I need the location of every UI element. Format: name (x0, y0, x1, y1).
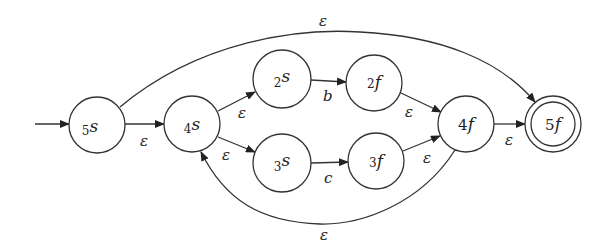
state-5f-accepting: 5f (525, 96, 581, 152)
svg-text:4f: 4f (458, 114, 477, 134)
nfa-diagram: ε ε ε b c ε ε ε ε ε 5s 4s 2s 2f 3s 3f 4f… (0, 0, 615, 252)
edge-label-2s-2f: b (323, 87, 333, 105)
edge-label-4s-3s: ε (222, 146, 230, 164)
edge-label-4f-4s: ε (320, 226, 328, 244)
edge-4s-2s (218, 92, 255, 111)
state-2s: 2s (253, 50, 311, 108)
svg-text:5f: 5f (545, 114, 564, 134)
state-3s: 3s (253, 134, 311, 192)
edge-2s-2f (311, 80, 346, 82)
edge-label-2f-4f: ε (405, 103, 413, 121)
edge-label-5s-4s: ε (140, 132, 148, 150)
edge-3f-4f (403, 136, 440, 151)
state-5s: 5s (69, 97, 125, 153)
edge-label-3f-4f: ε (423, 149, 431, 167)
state-3f: 3f (348, 133, 404, 189)
edge-label-4f-5f: ε (505, 131, 513, 149)
edge-label-4s-2s: ε (238, 104, 246, 122)
state-2f: 2f (346, 55, 402, 111)
state-4s: 4s (164, 96, 220, 152)
edge-3s-3f (311, 162, 348, 163)
edge-label-5s-5f: ε (319, 12, 327, 30)
edge-4f-4s (201, 150, 455, 224)
state-4f: 4f (438, 96, 494, 152)
edge-label-3s-3f: c (324, 169, 333, 187)
